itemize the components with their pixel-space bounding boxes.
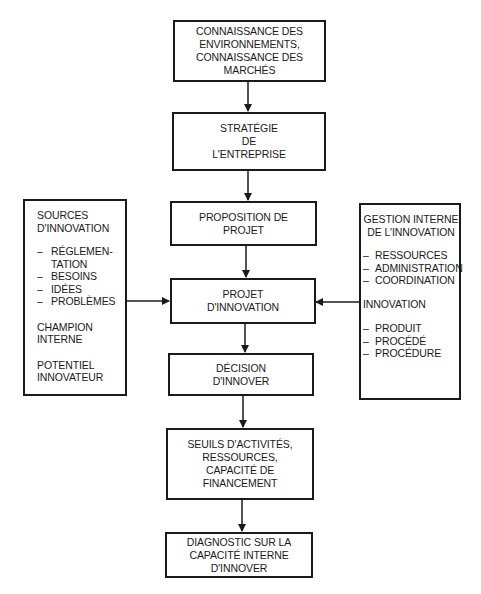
flowchart-canvas: CONNAISSANCE DES ENVIRONNEMENTS, CONNAIS… bbox=[0, 0, 481, 594]
dash: – bbox=[37, 295, 51, 308]
node-text-line: CONNAISSANCE DES bbox=[196, 51, 303, 64]
dash: – bbox=[37, 270, 51, 283]
node-projet: PROJET D'INNOVATION bbox=[170, 278, 316, 324]
gestion-subtitle: INNOVATION bbox=[363, 298, 459, 311]
sources-extra-line: CHAMPION bbox=[37, 321, 125, 334]
gestion-item-text: RESSOURCES bbox=[375, 249, 448, 261]
gestion-item-text: PROCÉDURE bbox=[375, 347, 441, 359]
gestion-item-text: PROCÉDÉ bbox=[375, 335, 426, 347]
node-sources: SOURCES D'INNOVATION –RÉGLEMEN- TATION –… bbox=[23, 199, 127, 396]
node-text-line: CONNAISSANCE DES bbox=[196, 25, 303, 38]
node-text-line: MARCHÉS bbox=[224, 64, 276, 77]
gestion-item: –RESSOURCES bbox=[363, 249, 459, 262]
node-text-line: DIAGNOSTIC SUR LA bbox=[187, 536, 292, 549]
node-text-line: D'INNOVER bbox=[211, 562, 268, 575]
node-seuils: SEUILS D'ACTIVITÉS, RESSOURCES, CAPACITÉ… bbox=[166, 428, 314, 500]
node-strategie: STRATÉGIE DE L'ENTREPRISE bbox=[172, 112, 326, 171]
dash: – bbox=[37, 283, 51, 296]
node-text-line: L'ENTREPRISE bbox=[212, 148, 286, 161]
gestion-item: –PRODUIT bbox=[363, 322, 459, 335]
dash: – bbox=[363, 249, 375, 262]
dash: – bbox=[363, 262, 375, 275]
node-gestion: GESTION INTERNE DE L'INNOVATION –RESSOUR… bbox=[359, 203, 461, 400]
sources-item: –IDÉES bbox=[37, 283, 125, 296]
node-text-line: DE bbox=[242, 135, 256, 148]
sources-item: –BESOINS bbox=[37, 270, 125, 283]
node-proposition: PROPOSITION DE PROJET bbox=[170, 201, 317, 246]
node-text-line: RESSOURCES, bbox=[202, 451, 277, 464]
node-text-line: CAPACITÉ INTERNE bbox=[189, 549, 288, 562]
node-text-line: D'INNOVATION bbox=[207, 301, 279, 314]
sources-item-text: BESOINS bbox=[51, 270, 97, 282]
sources-extra-line: INTERNE bbox=[37, 333, 125, 346]
node-decision: DÉCISION D'INNOVER bbox=[168, 353, 314, 396]
gestion-item-text: ADMINISTRATION bbox=[375, 262, 463, 274]
dash: – bbox=[363, 347, 375, 360]
node-text-line: CAPACITÉ DE bbox=[206, 464, 274, 477]
sources-extra-line: POTENTIEL bbox=[37, 359, 125, 372]
dash: – bbox=[363, 335, 375, 348]
sources-item-text: RÉGLEMEN- bbox=[51, 245, 113, 257]
node-text-line: PROJET bbox=[223, 224, 264, 237]
node-text-line: FINANCEMENT bbox=[203, 477, 278, 490]
node-text-line: SEUILS D'ACTIVITÉS, bbox=[187, 438, 292, 451]
sources-item-text: IDÉES bbox=[51, 283, 82, 295]
sources-item: –PROBLÈMES bbox=[37, 295, 125, 308]
node-text-line: DÉCISION bbox=[216, 362, 266, 375]
sources-extra-line: INNOVATEUR bbox=[37, 371, 125, 384]
sources-title-line: SOURCES bbox=[37, 209, 125, 222]
gestion-item: –PROCÉDURE bbox=[363, 347, 459, 360]
dash: – bbox=[37, 245, 51, 258]
gestion-title-line: GESTION INTERNE bbox=[363, 213, 459, 226]
node-text-line: STRATÉGIE bbox=[220, 122, 278, 135]
sources-item-text: PROBLÈMES bbox=[51, 295, 115, 307]
node-diagnostic: DIAGNOSTIC SUR LA CAPACITÉ INTERNE D'INN… bbox=[165, 532, 313, 578]
node-text-line: PROPOSITION DE bbox=[199, 211, 288, 224]
gestion-item: –PROCÉDÉ bbox=[363, 335, 459, 348]
node-text-line: D'INNOVER bbox=[213, 375, 270, 388]
sources-item: –RÉGLEMEN- bbox=[37, 245, 125, 258]
sources-title-line: D'INNOVATION bbox=[37, 222, 125, 235]
gestion-item: –ADMINISTRATION bbox=[363, 262, 459, 275]
node-text-line: PROJET bbox=[223, 288, 264, 301]
node-text-line: ENVIRONNEMENTS, bbox=[199, 38, 300, 51]
dash: – bbox=[363, 274, 375, 287]
gestion-title-line: DE L'INNOVATION bbox=[363, 226, 459, 239]
dash: – bbox=[363, 322, 375, 335]
sources-item-continuation: TATION bbox=[37, 258, 125, 271]
gestion-item: –COORDINATION bbox=[363, 274, 459, 287]
gestion-item-text: PRODUIT bbox=[375, 322, 422, 334]
node-connaissance: CONNAISSANCE DES ENVIRONNEMENTS, CONNAIS… bbox=[173, 20, 326, 82]
gestion-item-text: COORDINATION bbox=[375, 274, 455, 286]
